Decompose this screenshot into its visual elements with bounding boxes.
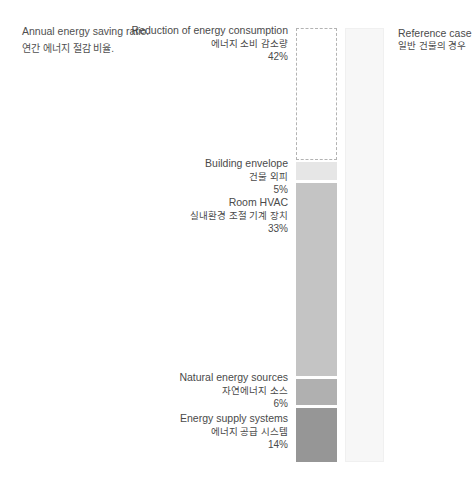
bar-segment-reduction-of-energy-consumption xyxy=(296,28,337,160)
segment-label-ko: 에너지 소비 감소량 xyxy=(132,38,288,51)
segment-label-room-hvac: Room HVAC 실내환경 조절 기계 장치 33% xyxy=(190,196,288,236)
energy-saving-stacked-bar xyxy=(296,28,337,462)
segment-label-reduction-of-energy-consumption: Reduction of energy consumption 에너지 소비 감… xyxy=(132,24,288,64)
reference-case-bar xyxy=(345,28,384,462)
bar-segment-energy-supply-systems xyxy=(296,408,337,462)
segment-label-en: Room HVAC xyxy=(190,196,288,210)
segment-label-value: 5% xyxy=(205,183,288,196)
reference-label-en: Reference case xyxy=(398,26,472,40)
segment-label-en: Natural energy sources xyxy=(179,371,288,385)
segment-label-en: Reduction of energy consumption xyxy=(132,24,288,38)
segment-label-energy-supply-systems: Energy supply systems 에너지 공급 시스템 14% xyxy=(180,412,288,452)
segment-label-value: 42% xyxy=(132,50,288,63)
segment-label-value: 33% xyxy=(190,222,288,235)
chart-plot-area: Reduction of energy consumption 에너지 소비 감… xyxy=(0,0,472,488)
segment-label-ko: 실내환경 조절 기계 장치 xyxy=(190,210,288,223)
segment-label-ko: 건물 외피 xyxy=(205,171,288,184)
segment-label-value: 14% xyxy=(180,438,288,451)
segment-label-en: Building envelope xyxy=(205,157,288,171)
segment-label-en: Energy supply systems xyxy=(180,412,288,426)
segment-label-ko: 자연에너지 소스 xyxy=(179,385,288,398)
bar-segment-building-envelope xyxy=(296,162,337,180)
reference-label-ko: 일반 건물의 경우 xyxy=(398,40,472,53)
segment-label-value: 6% xyxy=(179,397,288,410)
segment-label-building-envelope: Building envelope 건물 외피 5% xyxy=(205,157,288,197)
segment-label-ko: 에너지 공급 시스템 xyxy=(180,426,288,439)
bar-segment-natural-energy-sources xyxy=(296,379,337,405)
reference-case-label: Reference case 일반 건물의 경우 xyxy=(398,26,472,53)
bar-segment-room-hvac xyxy=(296,183,337,376)
segment-label-natural-energy-sources: Natural energy sources 자연에너지 소스 6% xyxy=(179,371,288,411)
